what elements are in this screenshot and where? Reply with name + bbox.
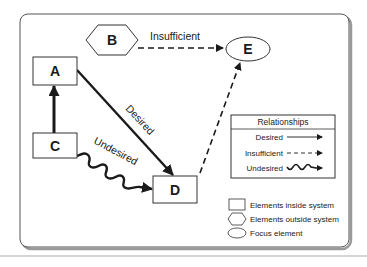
- node-d: D: [153, 176, 197, 203]
- legend-title: Relationships: [257, 117, 308, 127]
- node-b: B: [86, 25, 138, 55]
- legend-insufficient-label: Insufficient: [245, 149, 284, 158]
- node-e: E: [226, 37, 270, 61]
- system-diagram: Insufficient Desired Undesired B A C D E…: [0, 0, 367, 267]
- edge-label-insufficient: Insufficient: [150, 30, 200, 42]
- hexagon-icon: [228, 213, 246, 225]
- node-e-label: E: [243, 41, 252, 57]
- node-d-label: D: [170, 182, 180, 198]
- ellipse-icon: [228, 228, 246, 238]
- node-c-label: C: [50, 138, 60, 154]
- legend-inside-system-label: Elements inside system: [250, 201, 334, 210]
- node-a: A: [33, 57, 77, 85]
- node-b-label: B: [107, 32, 117, 48]
- rectangle-icon: [229, 199, 245, 210]
- legend-outside-system-label: Elements outside system: [250, 215, 339, 224]
- node-c: C: [33, 133, 77, 158]
- legend-desired-label: Desired: [255, 133, 283, 142]
- legend-focus-element-label: Focus element: [250, 229, 303, 238]
- node-a-label: A: [50, 63, 60, 79]
- relationships-legend: Relationships Desired Insufficient Undes…: [231, 115, 335, 178]
- legend-undesired-label: Undesired: [247, 164, 283, 173]
